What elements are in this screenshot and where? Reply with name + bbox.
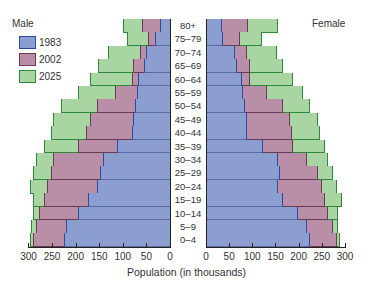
x-tick [252,243,253,247]
male-bar-1983 [66,220,170,234]
male-bar-1983 [146,46,170,60]
x-tick-label: 0 [155,251,185,262]
age-group-label: 40–44 [172,127,204,138]
female-bar-1983 [206,86,243,100]
legend-swatch-2025 [19,70,36,83]
age-group-label: 45–49 [172,114,204,125]
male-bar-1983 [144,59,170,73]
age-group-label: 30–34 [172,154,204,165]
male-bar-1983 [138,73,170,87]
x-tick [345,243,346,247]
x-tick [146,243,147,247]
female-bar-1983 [206,180,278,194]
female-bar-1983 [206,46,235,60]
right-x-axis [206,247,346,248]
female-bar-1983 [206,220,307,234]
male-bar-1983 [135,99,170,113]
female-bar-1983 [206,166,280,180]
male-bar-1983 [64,233,170,247]
female-bar-1983 [206,207,298,221]
age-group-label: 5–9 [172,221,204,232]
age-group-label: 25–29 [172,167,204,178]
male-bar-1983 [155,32,170,46]
x-tick [229,243,230,247]
female-bar-1983 [206,113,247,127]
age-group-label: 70–74 [172,47,204,58]
age-group-label: 35–39 [172,141,204,152]
x-tick [170,243,171,247]
legend-label-2025: 2025 [39,71,61,82]
male-bar-1983 [103,153,170,167]
male-bar-1983 [133,113,170,127]
x-tick [322,243,323,247]
female-bar-1983 [206,99,245,113]
male-bar-1983 [100,166,170,180]
female-bar-1983 [206,73,242,87]
x-tick [52,243,53,247]
male-label: Male [12,18,34,29]
age-group-label: 75–79 [172,33,204,44]
female-label: Female [312,18,345,29]
male-bar-1983 [117,140,170,154]
female-bar-1983 [206,140,263,154]
left-x-axis [28,247,171,248]
age-group-label: 50–54 [172,100,204,111]
x-tick [299,243,300,247]
legend-swatch-1983 [19,36,36,49]
age-group-label: 20–24 [172,181,204,192]
female-bar-1983 [206,32,223,46]
age-group-label: 15–19 [172,194,204,205]
legend-label-2002: 2002 [39,54,61,65]
male-bar-1983 [132,126,170,140]
x-tick-label: 300 [330,251,360,262]
male-bar-1983 [78,207,170,221]
male-bar-1983 [160,19,170,33]
age-group-label: 60–64 [172,74,204,85]
female-bar-1983 [206,59,237,73]
female-bar-1983 [206,153,278,167]
male-bar-1983 [97,180,170,194]
x-axis-title: Population (in thousands) [127,266,246,278]
age-group-label: 10–14 [172,208,204,219]
age-group-label: 55–59 [172,87,204,98]
x-tick [28,243,29,247]
legend-swatch-2002 [19,53,36,66]
female-bar-1983 [206,126,247,140]
x-tick [99,243,100,247]
age-group-label: 65–69 [172,60,204,71]
x-tick [275,243,276,247]
male-bar-1983 [137,86,170,100]
right-center-line [206,19,207,247]
female-bar-1983 [206,233,310,247]
left-center-line [170,19,171,247]
male-bar-1983 [88,193,170,207]
female-bar-1983 [206,19,222,33]
x-tick [76,243,77,247]
x-tick [123,243,124,247]
age-group-label: 80+ [172,20,204,31]
x-tick [206,243,207,247]
female-bar-1983 [206,193,283,207]
age-group-label: 0–4 [172,234,204,245]
legend-label-1983: 1983 [39,37,61,48]
